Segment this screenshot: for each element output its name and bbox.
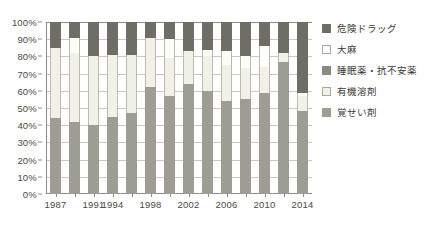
- bar-slot: [160, 22, 179, 194]
- x-axis-label: 1994: [102, 199, 124, 210]
- legend-item[interactable]: 覚せい剤: [322, 106, 446, 118]
- y-axis-label: 50%: [17, 103, 37, 114]
- bar-segment-kiken: [164, 22, 176, 39]
- chart-legend: 危険ドラッグ大麻睡眠薬・抗不安薬有機溶剤覚せい剤: [322, 22, 446, 127]
- x-axis-slot: 2010: [255, 197, 274, 213]
- stacked-bar[interactable]: [50, 22, 62, 194]
- x-axis-tick: [132, 194, 133, 197]
- x-axis-slot: 1998: [141, 197, 160, 213]
- x-axis-tick: [265, 194, 266, 197]
- bar-segment-kakusei: [240, 99, 252, 194]
- bar-segment-kakusei: [88, 125, 100, 194]
- x-axis: 19871991199419982002200620102014: [46, 197, 312, 213]
- y-axis-label: 40%: [17, 120, 37, 131]
- stacked-bar[interactable]: [107, 22, 119, 194]
- x-axis-slot: 1991: [84, 197, 103, 213]
- bar-segment-yuki: [145, 38, 157, 88]
- y-axis-tick: [38, 90, 42, 91]
- x-axis-slot: [65, 197, 84, 213]
- bar-segment-yuki: [107, 55, 119, 117]
- bar-segment-kakusei: [69, 122, 81, 194]
- y-axis-label: 20%: [17, 154, 37, 165]
- y-axis-label: 70%: [17, 68, 37, 79]
- x-axis-label: 2014: [292, 199, 314, 210]
- bar-segment-kiken: [259, 22, 271, 46]
- bar-segment-yuki: [88, 56, 100, 125]
- stacked-bar[interactable]: [69, 22, 81, 194]
- stacked-bar[interactable]: [164, 22, 176, 194]
- x-axis-tick: [56, 194, 57, 197]
- stacked-bar[interactable]: [278, 22, 290, 194]
- bar-segment-kiken: [107, 22, 119, 55]
- y-axis-tick: [38, 73, 42, 74]
- bar-slot: [65, 22, 84, 194]
- bar-slot: [141, 22, 160, 194]
- y-axis-label: 100%: [12, 17, 37, 28]
- bar-segment-yuki: [69, 53, 81, 122]
- x-axis-tick: [170, 194, 171, 197]
- y-axis-label: 80%: [17, 51, 37, 62]
- x-axis-label: 2002: [178, 199, 200, 210]
- bar-slot: [274, 22, 293, 194]
- x-axis-label: 2006: [216, 199, 238, 210]
- bar-segment-kiken: [183, 22, 195, 51]
- bar-segment-kiken: [126, 22, 138, 55]
- bar-segment-kiken: [145, 22, 157, 37]
- stacked-bar[interactable]: [221, 22, 233, 194]
- bar-series-container: [46, 22, 312, 194]
- legend-item[interactable]: 危険ドラッグ: [322, 22, 446, 34]
- bar-segment-kakusei: [297, 111, 309, 194]
- legend-swatch-icon: [322, 66, 331, 75]
- x-axis-slot: [274, 197, 293, 213]
- bar-segment-yuki: [278, 53, 290, 62]
- y-axis-label: 30%: [17, 137, 37, 148]
- x-axis-tick: [113, 194, 114, 197]
- x-axis-slot: 1987: [46, 197, 65, 213]
- x-axis-slot: [160, 197, 179, 213]
- legend-item[interactable]: 睡眠薬・抗不安薬: [322, 64, 446, 76]
- stacked-bar[interactable]: [183, 22, 195, 194]
- legend-item[interactable]: 大麻: [322, 43, 446, 55]
- y-axis-tick: [38, 159, 42, 160]
- bar-slot: [122, 22, 141, 194]
- bar-segment-taima: [164, 39, 176, 58]
- bar-segment-taima: [221, 51, 233, 65]
- x-axis-slot: [236, 197, 255, 213]
- legend-label: 覚せい剤: [337, 105, 377, 119]
- x-axis-tick: [246, 194, 247, 197]
- plot-area-wrapper: [46, 22, 312, 194]
- y-axis: 0%10%20%30%40%50%60%70%80%90%100%: [0, 22, 42, 194]
- x-axis-slot: 1994: [103, 197, 122, 213]
- x-axis-slot: [198, 197, 217, 213]
- x-axis-tick: [94, 194, 95, 197]
- legend-label: 危険ドラッグ: [337, 21, 397, 35]
- bar-segment-yuki: [221, 65, 233, 101]
- y-axis-tick: [38, 194, 42, 195]
- stacked-bar[interactable]: [297, 22, 309, 194]
- y-axis-label: 0%: [23, 189, 37, 200]
- bar-segment-kiken: [69, 22, 81, 37]
- bar-segment-yuki: [50, 48, 62, 119]
- y-axis-label: 10%: [17, 171, 37, 182]
- stacked-bar[interactable]: [88, 22, 100, 194]
- bar-segment-kiken: [221, 22, 233, 51]
- bar-segment-taima: [202, 50, 214, 57]
- stacked-bar[interactable]: [259, 22, 271, 194]
- bar-segment-yuki: [202, 56, 214, 90]
- bar-segment-kakusei: [202, 91, 214, 194]
- x-axis-slot: [122, 197, 141, 213]
- y-axis-tick: [38, 125, 42, 126]
- bar-segment-kakusei: [126, 113, 138, 194]
- stacked-bar[interactable]: [145, 22, 157, 194]
- x-axis-tick: [151, 194, 152, 197]
- bar-segment-kakusei: [145, 87, 157, 194]
- bar-segment-kakusei: [183, 84, 195, 194]
- x-axis-label: 1998: [140, 199, 162, 210]
- legend-item[interactable]: 有機溶剤: [322, 85, 446, 97]
- bar-segment-kakusei: [278, 62, 290, 194]
- stacked-bar[interactable]: [126, 22, 138, 194]
- bar-segment-kakusei: [50, 118, 62, 194]
- stacked-bar[interactable]: [240, 22, 252, 194]
- stacked-bar[interactable]: [202, 22, 214, 194]
- bar-slot: [217, 22, 236, 194]
